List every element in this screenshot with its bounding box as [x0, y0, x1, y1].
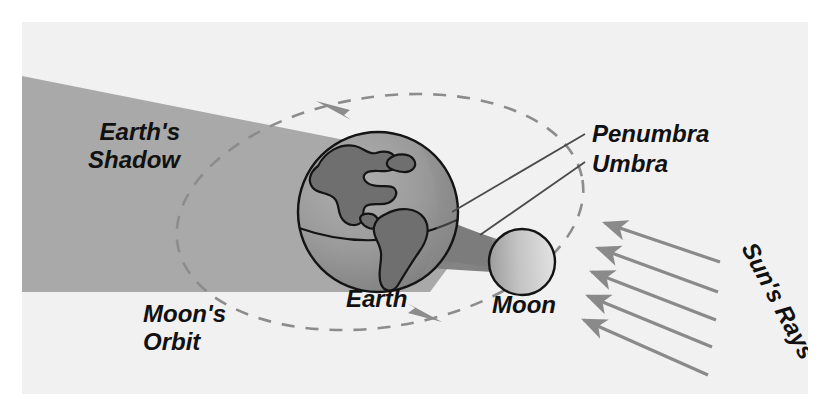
label-moon: Moon — [492, 291, 556, 318]
moon-circle — [489, 229, 555, 295]
label-moons-orbit-line1: Moon's — [143, 300, 226, 327]
label-earths-shadow-line2: Shadow — [88, 146, 181, 173]
lunar-eclipse-figure: Earth's Shadow Penumbra Umbra Earth Moon… — [0, 0, 830, 416]
label-penumbra: Penumbra — [592, 120, 709, 147]
label-earths-shadow-line1: Earth's — [100, 118, 180, 145]
diagram-canvas: Earth's Shadow Penumbra Umbra Earth Moon… — [0, 0, 830, 416]
earth-continent-greenland — [387, 154, 415, 172]
label-earth: Earth — [346, 285, 407, 312]
label-umbra: Umbra — [592, 150, 668, 177]
label-moons-orbit-line2: Orbit — [143, 328, 201, 355]
